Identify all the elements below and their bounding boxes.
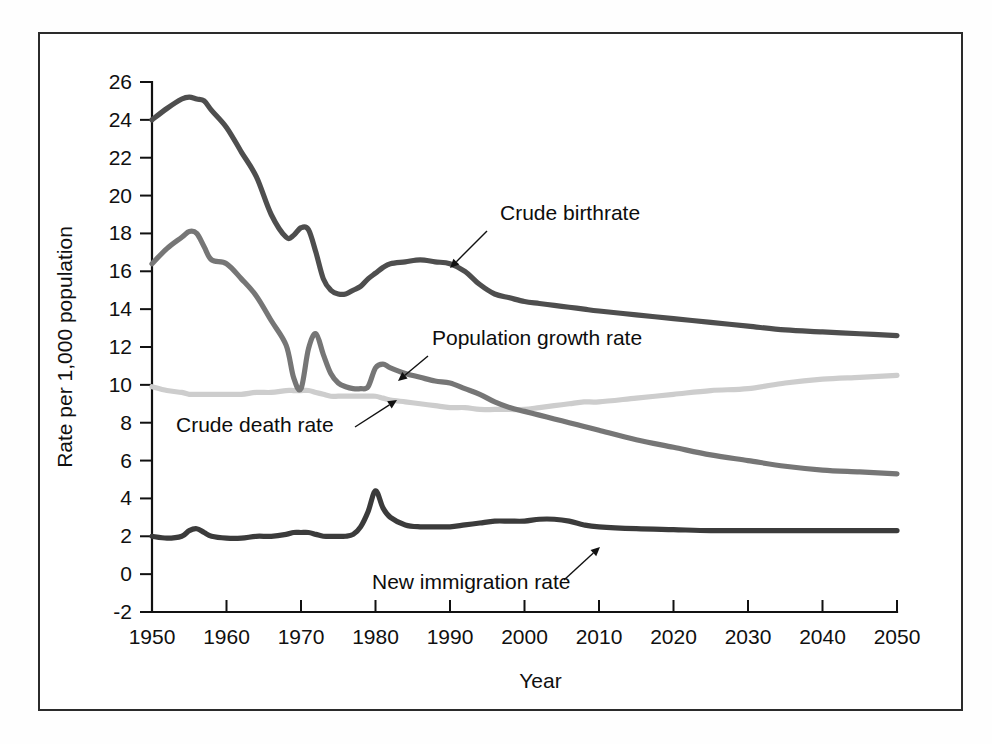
y-tick-label: 2 (120, 524, 132, 547)
x-tick-label: 1980 (352, 625, 399, 648)
y-tick-label: 4 (120, 486, 132, 509)
x-tick-label: 2020 (650, 625, 697, 648)
x-tick-label: 2050 (874, 625, 921, 648)
x-tick-label: 2030 (725, 625, 772, 648)
y-tick-label: 6 (120, 449, 132, 472)
y-tick-label: 8 (120, 411, 132, 434)
annotation-label-population-growth-rate: Population growth rate (432, 326, 642, 349)
annotation-label-crude-birthrate: Crude birthrate (500, 201, 640, 224)
y-tick-label: 0 (120, 562, 132, 585)
series-line-population-growth-rate (152, 231, 897, 474)
series-line-new-immigration-rate (152, 491, 897, 539)
y-tick-label: 14 (109, 297, 133, 320)
y-tick-label: 22 (109, 146, 132, 169)
annotation-arrow-line (405, 356, 428, 375)
x-tick-label: 1950 (129, 625, 176, 648)
y-tick-label: 26 (109, 70, 132, 93)
annotation-arrow-line (456, 231, 487, 262)
x-tick-label: 2000 (501, 625, 548, 648)
y-tick-label: 12 (109, 335, 132, 358)
y-tick-label: 18 (109, 221, 132, 244)
annotation-arrow-line (355, 405, 389, 427)
y-tick-label: 20 (109, 184, 132, 207)
y-axis-title: Rate per 1,000 population (53, 226, 76, 468)
annotation-arrow-line (564, 553, 593, 580)
y-tick-label: -2 (113, 600, 132, 623)
figure-root: -202468101214161820222426195019601970198… (0, 0, 992, 744)
x-tick-label: 1960 (203, 625, 250, 648)
y-tick-label: 10 (109, 373, 132, 396)
y-tick-label: 24 (109, 108, 133, 131)
x-tick-label: 1990 (427, 625, 474, 648)
line-chart: -202468101214161820222426195019601970198… (0, 0, 992, 744)
x-tick-label: 1970 (278, 625, 325, 648)
x-tick-label: 2040 (799, 625, 846, 648)
annotation-label-new-immigration-rate: New immigration rate (372, 570, 570, 593)
x-axis-title: Year (519, 669, 561, 692)
x-tick-label: 2010 (576, 625, 623, 648)
annotation-arrow-head (387, 400, 397, 408)
annotation-label-crude-death-rate: Crude death rate (176, 413, 334, 436)
series-line-crude-death-rate (152, 375, 897, 409)
y-tick-label: 16 (109, 259, 132, 282)
